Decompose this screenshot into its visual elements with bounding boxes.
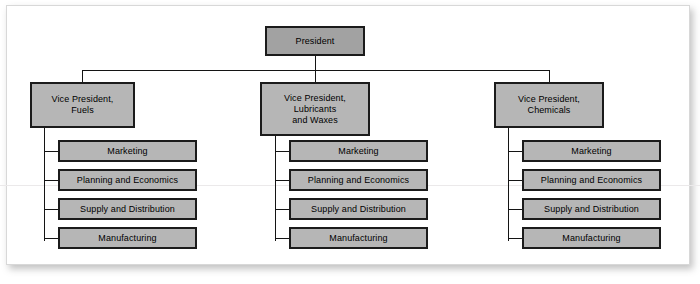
node-vp-fuels[interactable]: Vice President, Fuels bbox=[30, 82, 135, 128]
node-chemicals-supply-label: Supply and Distribution bbox=[524, 204, 659, 215]
connector-drop-chemicals bbox=[549, 70, 550, 82]
node-fuels-supply[interactable]: Supply and Distribution bbox=[58, 198, 197, 220]
connector-stub-chemicals-4 bbox=[508, 238, 522, 239]
connector-stub-lubricants-4 bbox=[275, 238, 289, 239]
connector-stub-fuels-2 bbox=[44, 180, 58, 181]
node-lubricants-supply[interactable]: Supply and Distribution bbox=[289, 198, 428, 220]
node-fuels-manufacturing-label: Manufacturing bbox=[60, 233, 195, 244]
node-chemicals-supply[interactable]: Supply and Distribution bbox=[522, 198, 661, 220]
org-chart: President Vice President, Fuels Marketin… bbox=[0, 0, 700, 284]
node-chemicals-marketing[interactable]: Marketing bbox=[522, 140, 661, 162]
node-fuels-marketing-label: Marketing bbox=[60, 146, 195, 157]
node-chemicals-marketing-label: Marketing bbox=[524, 146, 659, 157]
node-fuels-manufacturing[interactable]: Manufacturing bbox=[58, 227, 197, 249]
connector-stub-lubricants-1 bbox=[275, 151, 289, 152]
connector-stub-lubricants-2 bbox=[275, 180, 289, 181]
node-lubricants-supply-label: Supply and Distribution bbox=[291, 204, 426, 215]
node-president[interactable]: President bbox=[265, 26, 365, 56]
node-lubricants-planning[interactable]: Planning and Economics bbox=[289, 169, 428, 191]
node-lubricants-manufacturing[interactable]: Manufacturing bbox=[289, 227, 428, 249]
node-chemicals-manufacturing[interactable]: Manufacturing bbox=[522, 227, 661, 249]
node-lubricants-manufacturing-label: Manufacturing bbox=[291, 233, 426, 244]
node-chemicals-planning[interactable]: Planning and Economics bbox=[522, 169, 661, 191]
connector-stub-lubricants-3 bbox=[275, 209, 289, 210]
connector-stub-chemicals-3 bbox=[508, 209, 522, 210]
node-chemicals-planning-label: Planning and Economics bbox=[524, 175, 659, 186]
node-fuels-planning[interactable]: Planning and Economics bbox=[58, 169, 197, 191]
connector-stub-fuels-4 bbox=[44, 238, 58, 239]
node-lubricants-planning-label: Planning and Economics bbox=[291, 175, 426, 186]
node-chemicals-manufacturing-label: Manufacturing bbox=[524, 233, 659, 244]
connector-stub-chemicals-1 bbox=[508, 151, 522, 152]
node-vp-chemicals-label: Vice President, Chemicals bbox=[496, 94, 602, 116]
connector-drop-fuels bbox=[82, 70, 83, 82]
node-vp-chemicals[interactable]: Vice President, Chemicals bbox=[494, 82, 604, 128]
node-vp-lubricants-label: Vice President, Lubricants and Waxes bbox=[262, 93, 368, 126]
node-fuels-supply-label: Supply and Distribution bbox=[60, 204, 195, 215]
node-vp-fuels-label: Vice President, Fuels bbox=[32, 94, 133, 116]
node-lubricants-marketing[interactable]: Marketing bbox=[289, 140, 428, 162]
connector-drop-lubricants bbox=[315, 70, 316, 82]
connector-president-stem bbox=[315, 56, 316, 70]
connector-stub-chemicals-2 bbox=[508, 180, 522, 181]
node-fuels-planning-label: Planning and Economics bbox=[60, 175, 195, 186]
connector-spine-fuels bbox=[44, 128, 45, 241]
connector-stub-fuels-3 bbox=[44, 209, 58, 210]
node-lubricants-marketing-label: Marketing bbox=[291, 146, 426, 157]
connector-spine-chemicals bbox=[508, 128, 509, 241]
node-fuels-marketing[interactable]: Marketing bbox=[58, 140, 197, 162]
node-vp-lubricants[interactable]: Vice President, Lubricants and Waxes bbox=[260, 82, 370, 136]
connector-stub-fuels-1 bbox=[44, 151, 58, 152]
node-president-label: President bbox=[267, 36, 363, 47]
